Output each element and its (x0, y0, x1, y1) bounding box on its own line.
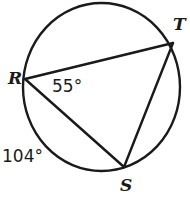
vertex-label-t: T (173, 16, 186, 33)
angle-measure-label-r: 55° (52, 78, 82, 95)
arc-measure-label-rs: 104° (2, 148, 43, 165)
vertex-label-r: R (8, 70, 22, 87)
geometry-figure: R T S 55° 104° (0, 0, 190, 200)
vertex-label-s: S (120, 177, 132, 194)
geometry-canvas (0, 0, 190, 200)
